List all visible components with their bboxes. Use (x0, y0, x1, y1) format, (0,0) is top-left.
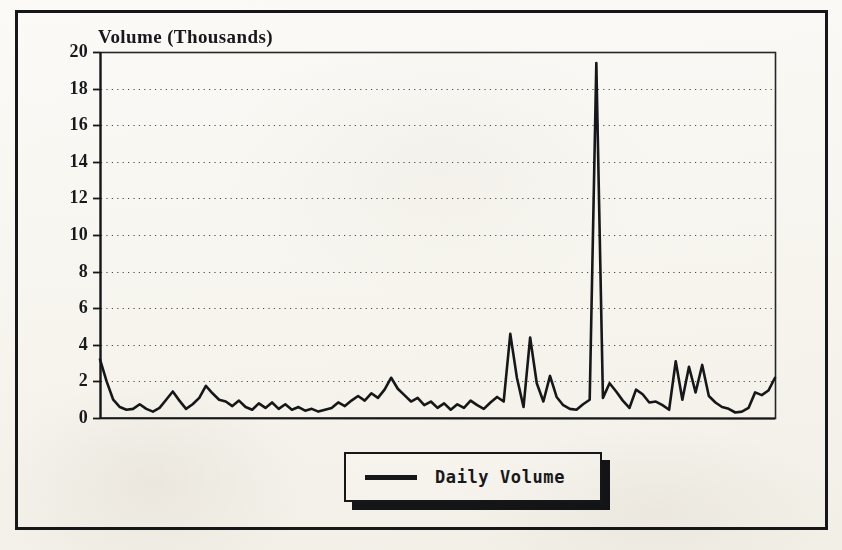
y-tick-label-4: 4 (54, 334, 88, 355)
legend-label-daily-volume: Daily Volume (435, 467, 565, 487)
chart-legend[interactable]: Daily Volume (344, 452, 602, 502)
y-tick-label-16: 16 (54, 114, 88, 135)
y-tick-label-18: 18 (54, 78, 88, 99)
y-tick-label-6: 6 (54, 297, 88, 318)
y-tick-label-8: 8 (54, 261, 88, 282)
y-tick-label-20: 20 (54, 41, 88, 62)
chart-title: Volume (Thousands) (98, 26, 273, 48)
y-tick-label-2: 2 (54, 370, 88, 391)
y-tick-label-14: 14 (54, 151, 88, 172)
y-tick-label-0: 0 (54, 407, 88, 428)
chart-figure: Volume (Thousands) 02468101214161820 Dai… (0, 0, 842, 550)
y-tick-label-12: 12 (54, 187, 88, 208)
y-tick-label-10: 10 (54, 224, 88, 245)
legend-line-swatch (365, 475, 417, 480)
